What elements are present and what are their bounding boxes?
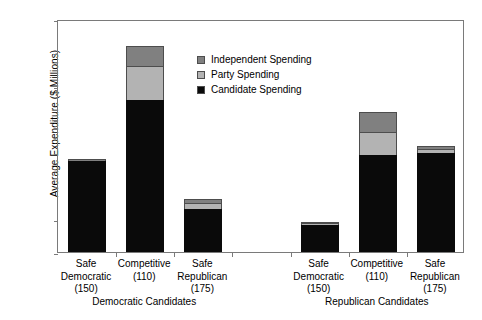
y-tick-mark: [54, 54, 58, 55]
category-label-line: Republican: [390, 271, 480, 284]
y-tick-mark: [54, 121, 58, 122]
x-tick-mark: [116, 252, 117, 257]
bar-segment-party: [126, 66, 164, 99]
legend-item-candidate-spending: Candidate Spending: [197, 82, 312, 97]
y-tick-mark: [54, 254, 58, 255]
stacked-bar: [184, 199, 222, 252]
category-label-line: (150): [274, 283, 364, 296]
legend-item-party-spending: Party Spending: [197, 67, 312, 82]
x-tick-mark: [407, 252, 408, 257]
legend-label-party-spending: Party Spending: [211, 69, 279, 80]
bar-segment-indep: [359, 112, 397, 132]
x-tick-mark: [174, 252, 175, 257]
y-tick-mark: [54, 154, 58, 155]
bar-segment-candidate: [68, 161, 106, 252]
legend-label-candidate-spending: Candidate Spending: [211, 84, 302, 95]
stacked-bar: [126, 46, 164, 252]
category-label-line: Safe: [157, 258, 247, 271]
stacked-bar: [68, 159, 106, 252]
category-label-line: (175): [157, 283, 247, 296]
bar-segment-candidate: [417, 153, 455, 252]
category-label: SafeRepublican(175): [157, 258, 247, 296]
x-tick-mark: [232, 252, 233, 257]
legend-swatch-party-spending: [197, 71, 205, 79]
legend-swatch-candidate-spending: [197, 86, 205, 94]
group-label: Democratic Candidates: [54, 296, 234, 307]
y-tick-mark: [54, 21, 58, 22]
bar-segment-candidate: [126, 100, 164, 252]
legend-item-independent-spending: Independent Spending: [197, 52, 312, 67]
category-label-line: (150): [41, 283, 131, 296]
category-label: SafeRepublican(175): [390, 258, 480, 296]
category-label-line: Republican: [157, 271, 247, 284]
legend-swatch-independent-spending: [197, 56, 205, 64]
bar-segment-candidate: [184, 209, 222, 252]
bar-segment-candidate: [301, 225, 339, 252]
legend-label-independent-spending: Independent Spending: [211, 54, 312, 65]
bar-segment-indep: [126, 46, 164, 67]
stacked-bar: [417, 146, 455, 253]
stacked-bar: [301, 222, 339, 252]
x-tick-mark: [349, 252, 350, 257]
y-tick-mark: [54, 221, 58, 222]
chart-legend: Independent Spending Party Spending Cand…: [197, 52, 312, 97]
category-label-line: (175): [390, 283, 480, 296]
y-tick-mark: [54, 88, 58, 89]
stacked-bar: [359, 112, 397, 252]
bar-segment-party: [359, 132, 397, 155]
chart-figure: Average Expenditure ($ Millions) 00.511.…: [0, 0, 482, 320]
group-label: Republican Candidates: [287, 296, 467, 307]
plot-area: 00.511.522.533.5 Independent Spending Pa…: [57, 20, 464, 253]
category-label-line: Safe: [390, 258, 480, 271]
x-tick-mark: [291, 252, 292, 257]
bar-segment-candidate: [359, 155, 397, 252]
y-tick-mark: [54, 187, 58, 188]
